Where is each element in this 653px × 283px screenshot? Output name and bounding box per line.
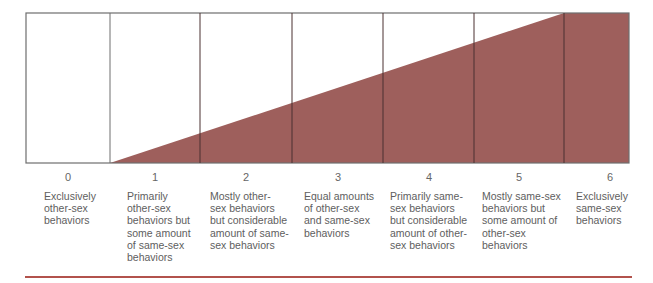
scale-label-4: Primarily same- sex behaviors but consid… [390,190,478,251]
scale-number-1: 1 [145,171,165,183]
bottom-rule-divider [25,276,632,278]
scale-label-6: Exclusively same-sex behaviors [576,190,651,227]
scale-number-2: 2 [236,171,256,183]
shaded-region [110,13,629,163]
scale-label-5: Mostly same-sex behaviors but some amoun… [482,190,570,251]
scale-number-0: 0 [58,171,78,183]
scale-label-2: Mostly other- sex behaviors but consider… [210,190,298,251]
scale-label-3: Equal amounts of other-sex and same-sex … [304,190,392,239]
scale-number-6: 6 [600,171,620,183]
scale-label-0: Exclusively other-sex behaviors [44,190,132,227]
scale-number-3: 3 [328,171,348,183]
scale-number-5: 5 [509,171,529,183]
scale-number-4: 4 [419,171,439,183]
scale-label-1: Primarily other-sex behaviors but some a… [127,190,215,263]
